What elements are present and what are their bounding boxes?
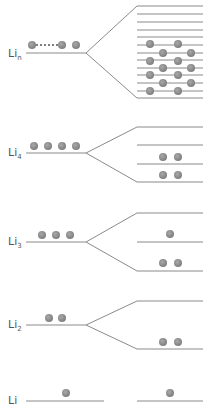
- electron-ball: [45, 314, 53, 322]
- electron-ball: [62, 389, 70, 397]
- ellipsis-dot: [36, 44, 38, 46]
- electron-ball: [159, 64, 167, 72]
- bonding-split-line-bottom: [86, 325, 137, 349]
- electron-ball: [146, 71, 154, 79]
- electron-ball: [174, 87, 182, 95]
- label-subscript: 4: [17, 153, 21, 161]
- label-text: Li: [8, 47, 17, 60]
- electron-ball: [174, 57, 182, 65]
- electron-ball: [159, 49, 167, 57]
- electron-ball: [146, 40, 154, 48]
- electron-ball: [38, 231, 46, 239]
- ellipsis-dot: [48, 44, 50, 46]
- label-li-2: Li2: [8, 318, 22, 333]
- label-text: Li: [8, 146, 17, 159]
- ellipsis-dot: [40, 44, 42, 46]
- electron-ball: [44, 142, 52, 150]
- electron-ball: [187, 64, 195, 72]
- electron-ball: [174, 338, 182, 346]
- electron-ball: [159, 259, 167, 267]
- label-subscript: 3: [17, 242, 21, 250]
- electron-ball: [174, 40, 182, 48]
- electron-ball: [187, 79, 195, 87]
- electron-ball: [174, 259, 182, 267]
- bonding-split-line-bottom: [86, 242, 137, 271]
- group-li-4: [26, 127, 203, 182]
- electron-ball: [146, 87, 154, 95]
- electron-ball: [58, 142, 66, 150]
- electron-ball: [159, 338, 167, 346]
- electron-ball: [30, 142, 38, 150]
- label-subscript: n: [17, 54, 21, 62]
- ellipsis-dot: [56, 44, 58, 46]
- electron-ball: [187, 49, 195, 57]
- ellipsis-dot: [52, 44, 54, 46]
- label-li-3: Li3: [8, 235, 22, 250]
- group-li-3: [26, 213, 203, 271]
- electron-ball: [174, 171, 182, 179]
- electron-ball: [166, 389, 174, 397]
- label-text: Li: [8, 235, 17, 248]
- label-text: Li: [8, 318, 17, 331]
- label-li: Li: [8, 394, 17, 407]
- electron-ball: [72, 41, 80, 49]
- bonding-split-line-top: [86, 213, 137, 242]
- electron-ball: [159, 153, 167, 161]
- label-text: Li: [8, 394, 17, 407]
- group-li-n: [26, 6, 203, 98]
- electron-ball: [159, 79, 167, 87]
- electron-ball: [174, 153, 182, 161]
- electron-ball: [58, 314, 66, 322]
- label-subscript: 2: [17, 325, 21, 333]
- ellipsis-dot: [44, 44, 46, 46]
- group-li: [26, 389, 203, 401]
- electron-ball: [174, 71, 182, 79]
- li-cluster-energy-diagram: [0, 0, 208, 410]
- electron-ball: [28, 41, 36, 49]
- electron-ball: [72, 142, 80, 150]
- bonding-split-line-bottom: [86, 153, 137, 182]
- electron-ball: [66, 231, 74, 239]
- bonding-split-line-top: [86, 127, 137, 153]
- group-li-2: [26, 301, 203, 349]
- electron-ball: [166, 230, 174, 238]
- bonding-split-line-top: [86, 6, 137, 53]
- label-li-n: Lin: [8, 47, 22, 62]
- electron-ball: [159, 171, 167, 179]
- electron-ball: [58, 41, 66, 49]
- label-li-4: Li4: [8, 146, 22, 161]
- electron-ball: [52, 231, 60, 239]
- bonding-split-line-top: [86, 301, 137, 325]
- bonding-split-line-bottom: [86, 53, 137, 98]
- electron-ball: [146, 57, 154, 65]
